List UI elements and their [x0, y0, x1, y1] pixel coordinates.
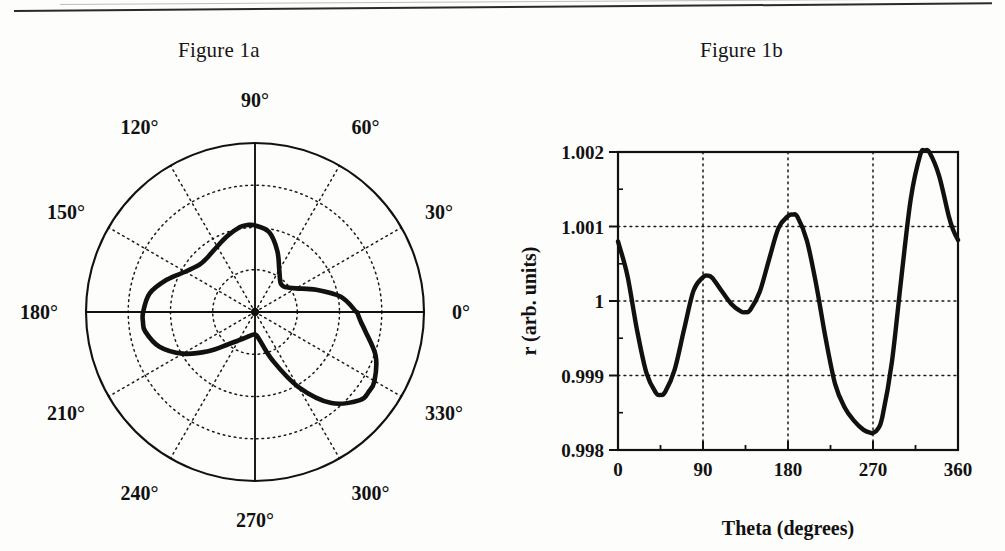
x-axis-title: Theta (degrees) [722, 517, 854, 540]
x-tick-label-180: 180 [774, 459, 803, 480]
polar-center-marker [251, 308, 259, 316]
y-tick-label-1: 1 [595, 291, 605, 312]
polar-angle-label-90: 90° [241, 89, 269, 111]
polar-plot-svg: 0°30°60°90°120°150°180°210°240°270°300°3… [0, 80, 502, 550]
figure-b-title: Figure 1b [700, 38, 783, 63]
polar-angle-label-0: 0° [452, 301, 470, 323]
polar-angle-label-270: 270° [236, 509, 274, 531]
x-axis-tick-labels: 090180270360 [613, 459, 972, 480]
y-tick-label-0.999: 0.999 [561, 366, 604, 387]
polar-angle-label-300: 300° [352, 482, 390, 504]
polar-angle-label-150: 150° [47, 201, 85, 223]
y-tick-label-1.001: 1.001 [561, 217, 604, 238]
y-tick-label-1.002: 1.002 [561, 142, 604, 163]
scanned-page: Figure 1a Figure 1b 0°30°60°90°120°150°1… [0, 0, 1005, 551]
line-plot-svg: 0.9980.99911.0011.002 090180270360 Theta… [502, 80, 1005, 550]
polar-angle-label-240: 240° [121, 482, 159, 504]
polar-angle-labels: 0°30°60°90°120°150°180°210°240°270°300°3… [20, 89, 470, 531]
x-tick-label-360: 360 [944, 459, 973, 480]
figure-a-polar-chart: 0°30°60°90°120°150°180°210°240°270°300°3… [0, 80, 502, 550]
cartesian-gridlines [618, 152, 958, 450]
figure-b-line-chart: 0.9980.99911.0011.002 090180270360 Theta… [502, 80, 1005, 550]
y-tick-label-0.998: 0.998 [561, 440, 604, 461]
y-axis-title: r (arb. units) [518, 246, 541, 355]
polar-angle-label-330: 330° [425, 402, 463, 424]
x-tick-label-270: 270 [859, 459, 888, 480]
x-tick-label-90: 90 [694, 459, 713, 480]
figure-a-title: Figure 1a [178, 38, 260, 63]
polar-angle-label-180: 180° [20, 301, 58, 323]
polar-angle-label-210: 210° [47, 402, 85, 424]
x-tick-label-0: 0 [613, 459, 623, 480]
polar-angle-label-30: 30° [425, 201, 453, 223]
y-axis-tick-labels: 0.9980.99911.0011.002 [561, 142, 604, 461]
polar-angle-label-60: 60° [352, 116, 380, 138]
polar-angle-label-120: 120° [121, 116, 159, 138]
